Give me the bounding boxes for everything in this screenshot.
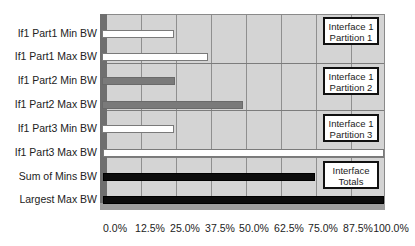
plot-area: Interface 1 Partition 1 Interface 1 Part… [107, 14, 385, 203]
category-label: If1 Part3 Min BW [18, 122, 97, 134]
group-label-line: Totals [325, 176, 377, 187]
group-label-line: Interface 1 [325, 118, 377, 129]
group-label-partition-2: Interface 1 Partition 2 [323, 67, 379, 95]
x-tick-label: 75.0% [308, 222, 338, 234]
bar-if1-part2-max [102, 101, 243, 109]
group-label-partition-3: Interface 1 Partition 3 [323, 114, 379, 142]
bar-if1-part3-max [103, 149, 384, 157]
x-tick-label: 50.0% [239, 222, 269, 234]
category-label: If1 Part1 Max BW [15, 50, 97, 62]
group-separator [107, 63, 384, 64]
x-tick-label: 25.0% [170, 222, 200, 234]
x-tick-label: 62.5% [274, 222, 304, 234]
group-label-line: Interface [325, 165, 377, 176]
bar-if1-part2-min [102, 77, 175, 85]
bar-largest-max [103, 196, 384, 204]
bar-if1-part1-min [102, 30, 174, 38]
group-separator [107, 110, 384, 111]
x-tick-label: 12.5% [135, 222, 165, 234]
x-tick-label: 37.5% [205, 222, 235, 234]
group-label-line: Partition 2 [325, 82, 377, 93]
group-label-line: Partition 1 [325, 32, 377, 43]
bar-if1-part3-min [102, 125, 174, 133]
x-tick-label: 100.0% [373, 222, 409, 234]
group-separator [107, 157, 384, 158]
category-label: If1 Part1 Min BW [18, 27, 97, 39]
category-label: If1 Part3 Max BW [15, 146, 97, 158]
group-label-line: Interface 1 [325, 71, 377, 82]
category-label: Sum of Mins BW [19, 170, 97, 182]
group-label-line: Interface 1 [325, 21, 377, 32]
x-tick-label: 87.5% [343, 222, 373, 234]
group-label-partition-1: Interface 1 Partition 1 [323, 17, 379, 45]
category-label: If1 Part2 Min BW [18, 74, 97, 86]
bar-if1-part1-max [102, 53, 208, 61]
category-label: If1 Part2 Max BW [15, 98, 97, 110]
x-tick-label: 0.0% [103, 222, 127, 234]
bandwidth-bar-chart: If1 Part1 Min BW If1 Part1 Max BW If1 Pa… [0, 0, 415, 246]
gridline [316, 15, 317, 203]
category-label: Largest Max BW [19, 193, 97, 205]
bar-sum-of-mins [103, 173, 315, 181]
plot-floor [100, 203, 385, 210]
group-label-totals: Interface Totals [323, 161, 379, 189]
group-label-line: Partition 3 [325, 129, 377, 140]
